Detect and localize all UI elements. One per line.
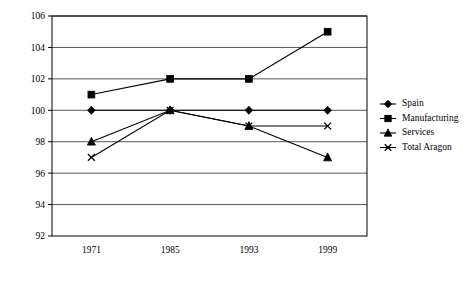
series-total-aragon [88, 107, 331, 161]
series-services [87, 106, 331, 161]
series-line [91, 110, 327, 157]
legend-label: Total Aragon [402, 142, 452, 152]
data-point-diamond-marker [88, 106, 96, 114]
y-axis-tick-label: 94 [36, 200, 46, 210]
legend-label: Spain [402, 98, 424, 108]
data-point-square-marker [324, 28, 331, 35]
legend-item-manufacturing[interactable]: Manufacturing [380, 113, 459, 123]
legend-item-spain[interactable]: Spain [380, 98, 424, 108]
chart-container: 92949698100102104106 1971198519931999 Sp… [0, 0, 470, 281]
series-manufacturing [88, 28, 331, 98]
data-point-triangle-marker [87, 137, 95, 145]
x-axis-tick-label: 1993 [239, 245, 258, 255]
data-series [87, 28, 331, 161]
series-line [91, 32, 327, 95]
data-point-square-marker [385, 115, 391, 121]
x-axis-tick-label: 1971 [82, 245, 101, 255]
line-chart: 92949698100102104106 1971198519931999 Sp… [0, 0, 470, 281]
data-point-square-marker [88, 91, 95, 98]
data-point-diamond-marker [245, 106, 253, 114]
legend-item-total-aragon[interactable]: Total Aragon [380, 142, 452, 152]
data-point-diamond-marker [324, 106, 332, 114]
data-point-diamond-marker [384, 100, 391, 108]
y-axis-tick-label: 96 [36, 169, 46, 179]
y-axis-tick-label: 98 [36, 137, 46, 147]
y-axis-tick-label: 92 [36, 231, 46, 241]
legend-item-services[interactable]: Services [380, 127, 434, 137]
x-axis-tick-label: 1999 [318, 245, 337, 255]
data-point-square-marker [167, 75, 174, 82]
data-point-triangle-marker [324, 153, 332, 161]
x-axis-tick-labels: 1971198519931999 [82, 245, 338, 255]
legend-label: Services [402, 127, 434, 137]
y-axis-tick-label: 106 [31, 11, 46, 21]
y-axis-tick-labels: 92949698100102104106 [31, 11, 52, 241]
series-line [91, 110, 327, 157]
x-axis-tick-label: 1985 [161, 245, 180, 255]
data-point-square-marker [245, 75, 252, 82]
y-axis-tick-label: 102 [31, 74, 46, 84]
y-axis-tick-label: 100 [31, 106, 46, 116]
data-point-cross-marker [88, 154, 95, 161]
y-axis-tick-label: 104 [31, 43, 46, 53]
legend-label: Manufacturing [402, 113, 459, 123]
legend: SpainManufacturingServicesTotal Aragon [380, 98, 459, 152]
series-spain [88, 106, 332, 114]
